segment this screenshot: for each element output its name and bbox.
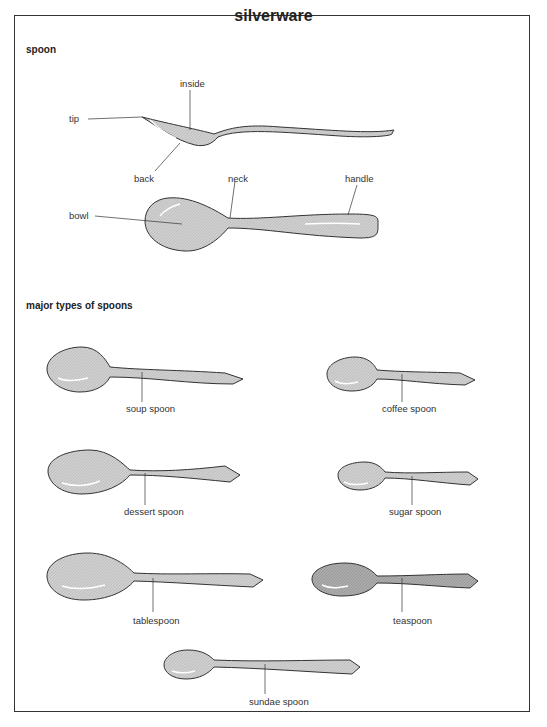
label-soup-spoon: soup spoon xyxy=(126,403,175,414)
label-teaspoon: teaspoon xyxy=(393,615,432,626)
label-sundae-spoon: sundae spoon xyxy=(249,696,309,707)
sundae-spoon-illustration xyxy=(164,650,360,694)
label-back: back xyxy=(134,173,154,184)
diagram-illustration xyxy=(0,0,547,727)
tablespoon-illustration xyxy=(47,553,263,612)
spoon-top-view xyxy=(145,198,378,251)
label-dessert-spoon: dessert spoon xyxy=(124,506,184,517)
teaspoon-illustration xyxy=(312,563,478,612)
sugar-spoon-illustration xyxy=(338,462,478,505)
coffee-spoon-illustration xyxy=(327,357,475,402)
label-sugar-spoon: sugar spoon xyxy=(389,506,441,517)
label-inside: inside xyxy=(180,78,205,89)
label-neck: neck xyxy=(228,173,248,184)
label-handle: handle xyxy=(345,173,374,184)
dessert-spoon-illustration xyxy=(48,450,240,505)
label-tip: tip xyxy=(69,113,79,124)
label-coffee-spoon: coffee spoon xyxy=(382,403,436,414)
spoon-side-view xyxy=(142,117,394,146)
label-bowl: bowl xyxy=(69,210,89,221)
soup-spoon-illustration xyxy=(47,347,243,402)
label-tablespoon: tablespoon xyxy=(133,615,179,626)
